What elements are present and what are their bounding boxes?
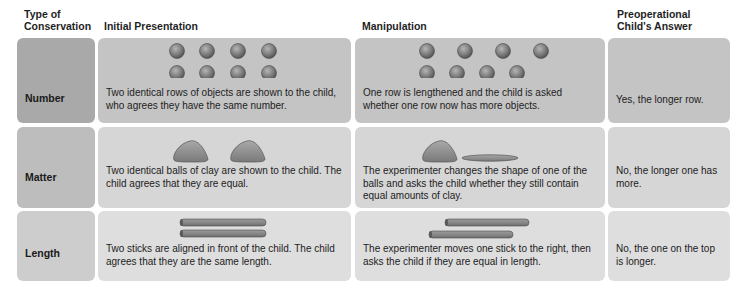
initial-presentation-text: Two identical balls of clay are shown to… — [106, 165, 345, 190]
row-number-type-cell: Number — [17, 38, 95, 123]
child-answer-text: Yes, the longer row. — [616, 94, 724, 107]
row-matter-answer-cell: No, the longer one has more. — [608, 127, 730, 208]
conservation-type-label: Matter — [25, 171, 57, 183]
row-matter-manipulation-cell: The experimenter changes the shape of on… — [355, 127, 605, 208]
row-length-manipulation-cell: The experimenter moves one stick to the … — [355, 211, 605, 281]
conservation-type-label: Number — [25, 92, 65, 104]
two-clay-balls-icon — [98, 127, 351, 167]
header-line: Conservation — [24, 20, 91, 32]
two-rows-of-four-balls-icon — [98, 38, 351, 78]
row-matter-initial-cell: Two identical balls of clay are shown to… — [98, 127, 351, 208]
initial-presentation-text: Two sticks are aligned in front of the c… — [106, 243, 345, 268]
conservation-type-label: Length — [25, 247, 60, 259]
manipulation-text: The experimenter moves one stick to the … — [363, 243, 599, 268]
child-answer-text: No, the longer one has more. — [616, 165, 724, 190]
row-number-manipulation-cell: One row is lengthened and the child is a… — [355, 38, 605, 123]
header-child-answer: Preoperational Child's Answer — [617, 8, 692, 32]
row-length-answer-cell: No, the one on the top is longer. — [608, 211, 730, 281]
row-number-initial-cell: Two identical rows of objects are shown … — [98, 38, 351, 123]
lengthened-row-of-balls-icon — [355, 38, 605, 78]
header-manipulation: Manipulation — [362, 20, 427, 32]
row-length-initial-cell: Two sticks are aligned in front of the c… — [98, 211, 351, 281]
header-initial-presentation: Initial Presentation — [104, 20, 198, 32]
header-line: Child's Answer — [617, 20, 692, 32]
child-answer-text: No, the one on the top is longer. — [616, 243, 724, 268]
manipulation-text: One row is lengthened and the child is a… — [363, 87, 599, 112]
row-length-type-cell: Length — [17, 211, 95, 281]
manipulation-text: The experimenter changes the shape of on… — [363, 165, 599, 203]
header-line: Preoperational — [617, 8, 692, 20]
row-matter-type-cell: Matter — [17, 127, 95, 208]
header-type-of-conservation: Type of Conservation — [24, 8, 91, 32]
header-line: Type of — [24, 8, 91, 20]
clay-ball-and-flattened-clay-icon — [355, 127, 605, 167]
row-number-answer-cell: Yes, the longer row. — [608, 38, 730, 123]
initial-presentation-text: Two identical rows of objects are shown … — [106, 87, 345, 112]
